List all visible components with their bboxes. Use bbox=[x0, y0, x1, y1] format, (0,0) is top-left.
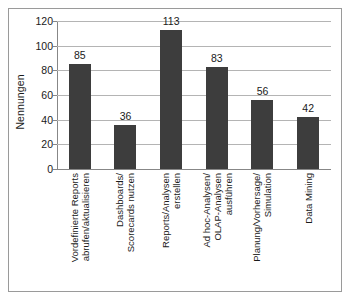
y-axis-tick-label: 0 bbox=[23, 164, 53, 175]
x-axis-category-label: Reports/Analysenerstellen bbox=[148, 173, 194, 291]
x-axis-category-label: Vordefinierte Reportsabrufen/aktualisier… bbox=[57, 173, 103, 291]
y-axis-tick-label: 120 bbox=[23, 16, 53, 27]
x-axis-category-label-text: Data Mining bbox=[303, 173, 314, 291]
x-axis-category-label: Ad hoc-Analysen/OLAP-Analysenausführen bbox=[194, 173, 240, 291]
bar-group[interactable]: 42 bbox=[285, 20, 331, 169]
x-axis-category-label: Planung/Vorhersage/Simulation bbox=[240, 173, 286, 291]
bar-group[interactable]: 83 bbox=[194, 20, 240, 169]
x-axis-category-label-text: Ad hoc-Analysen/OLAP-Analysenausführen bbox=[200, 173, 233, 291]
bar-value-label: 36 bbox=[120, 110, 132, 122]
x-axis-category-label-text: Dashboards/Scorecards nutzen bbox=[114, 173, 136, 291]
y-axis-tick-label: 60 bbox=[23, 90, 53, 101]
bar-group[interactable]: 113 bbox=[148, 20, 194, 169]
x-axis-category-label: Dashboards/Scorecards nutzen bbox=[103, 173, 149, 291]
x-axis-category-label-text: Reports/Analysenerstellen bbox=[160, 173, 182, 291]
bar-value-label: 56 bbox=[257, 85, 269, 97]
bar-chart-figure: Nennungen 120100806040200 8536113835642 … bbox=[8, 8, 342, 292]
bar-value-label: 83 bbox=[211, 52, 223, 64]
bar[interactable]: 36 bbox=[114, 125, 136, 169]
y-axis-tick-label: 20 bbox=[23, 139, 53, 150]
bar[interactable]: 85 bbox=[69, 64, 91, 169]
y-axis-tick-labels: 120100806040200 bbox=[23, 14, 53, 160]
x-axis-category-label-text: Planung/Vorhersage/Simulation bbox=[251, 173, 273, 291]
x-axis-category-label-text: Vordefinierte Reportsabrufen/aktualisier… bbox=[69, 173, 91, 291]
bar[interactable]: 56 bbox=[251, 100, 273, 169]
bar-group[interactable]: 36 bbox=[103, 20, 149, 169]
x-axis-category-label: Data Mining bbox=[285, 173, 331, 291]
x-axis-category-labels: Vordefinierte Reportsabrufen/aktualisier… bbox=[57, 173, 331, 293]
bar[interactable]: 42 bbox=[297, 117, 319, 169]
y-axis-tick-label: 100 bbox=[23, 41, 53, 52]
bar-group[interactable]: 56 bbox=[240, 20, 286, 169]
y-axis-tick-label: 40 bbox=[23, 115, 53, 126]
bars-layer: 8536113835642 bbox=[57, 21, 331, 170]
bar-group[interactable]: 85 bbox=[57, 20, 103, 169]
bar-value-label: 85 bbox=[74, 49, 86, 61]
bar[interactable]: 113 bbox=[160, 30, 182, 169]
bar-value-label: 42 bbox=[302, 102, 314, 114]
y-axis-tick-label: 80 bbox=[23, 65, 53, 76]
bar[interactable]: 83 bbox=[206, 67, 228, 169]
bar-value-label: 113 bbox=[163, 15, 180, 27]
plot-area: 8536113835642 bbox=[57, 21, 331, 170]
